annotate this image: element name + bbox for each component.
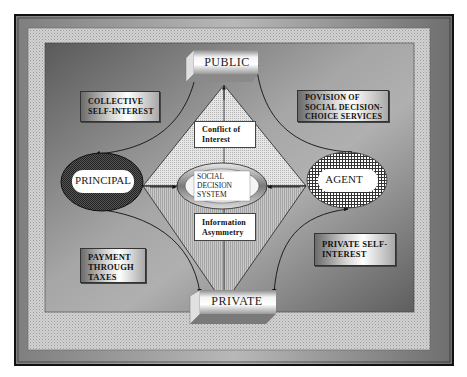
payment-through-taxes-box: PAYMENT THROUGH TAXES [80, 248, 146, 283]
public-label: PUBLIC [196, 55, 258, 70]
principal-label: PRINCIPAL [72, 174, 134, 186]
private-label: PRIVATE [200, 294, 274, 309]
social-decision-system-label: SOCIAL DECISION SYSTEM [194, 172, 253, 199]
collective-self-interest-box: COLLECTIVE SELF-INTEREST [80, 91, 160, 122]
private-self-interest-box: PRIVATE SELF- INTEREST [314, 233, 396, 266]
conflict-of-interest-box: Conflict of Interest [194, 121, 256, 148]
information-asymmetry-box: Information Asymmetry [194, 213, 256, 241]
provision-services-box: POVISION OF SOCIAL DECISION- CHOICE SERV… [297, 90, 389, 122]
diagram-canvas: PUBLIC PRIVATE PRINCIPAL AGENT SOCIAL DE… [0, 0, 467, 377]
agent-label: AGENT [318, 173, 370, 185]
